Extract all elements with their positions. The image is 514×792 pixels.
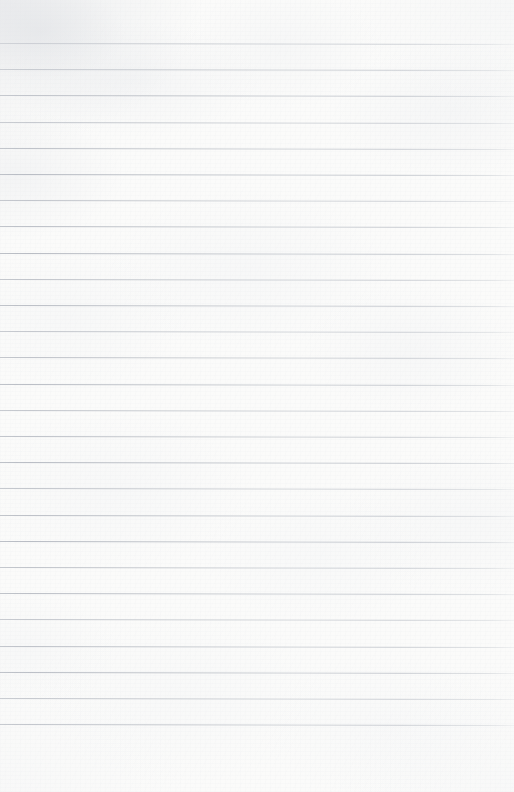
- rule-line: [0, 253, 514, 255]
- rule-line: [0, 672, 514, 674]
- rule-line: [0, 226, 514, 228]
- rule-line: [0, 305, 514, 307]
- rule-line: [0, 410, 514, 412]
- rule-line: [0, 488, 514, 490]
- rule-line: [0, 462, 514, 464]
- rule-line: [0, 724, 514, 726]
- rule-line: [0, 43, 514, 45]
- paper-grain: [0, 0, 514, 792]
- rule-line: [0, 515, 514, 517]
- rule-line: [0, 646, 514, 648]
- paper-texture: [0, 0, 514, 792]
- rule-line: [0, 541, 514, 543]
- rule-line: [0, 331, 514, 333]
- rule-line: [0, 698, 514, 700]
- rule-line: [0, 174, 514, 176]
- rule-line: [0, 122, 514, 124]
- rule-line: [0, 436, 514, 438]
- rule-line: [0, 279, 514, 281]
- notebook-page: [0, 0, 514, 792]
- rule-line: [0, 148, 514, 150]
- rule-line: [0, 69, 514, 71]
- rule-line: [0, 619, 514, 621]
- rule-line: [0, 357, 514, 359]
- paper-vignette: [0, 0, 514, 792]
- ruled-lines-group: [0, 0, 514, 792]
- rule-line: [0, 384, 514, 386]
- rule-line: [0, 95, 514, 97]
- rule-line: [0, 567, 514, 569]
- rule-line: [0, 593, 514, 595]
- rule-line: [0, 200, 514, 202]
